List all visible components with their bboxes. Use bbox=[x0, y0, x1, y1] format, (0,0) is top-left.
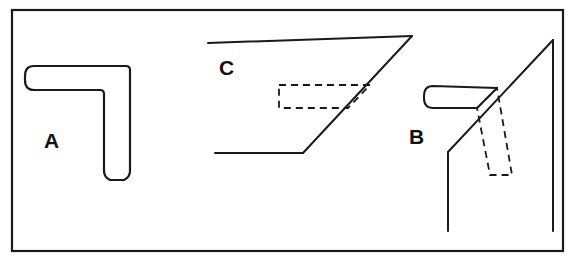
shape-c-group bbox=[208, 36, 412, 153]
drawing-canvas bbox=[0, 0, 578, 261]
outer-frame bbox=[12, 10, 563, 251]
shape-b-rounded-horizontal-arm bbox=[424, 86, 497, 108]
figure-label-c: C bbox=[219, 57, 235, 78]
shape-b-group bbox=[424, 40, 553, 231]
shape-c-top-edge bbox=[208, 36, 412, 43]
shape-a-outline bbox=[25, 66, 130, 180]
figure-label-b: B bbox=[409, 126, 425, 147]
figure-label-a: A bbox=[44, 130, 60, 151]
shape-c-diagonal-edge bbox=[303, 36, 412, 153]
shape-a-group bbox=[25, 66, 130, 180]
figure-plate: A B C bbox=[0, 0, 578, 261]
